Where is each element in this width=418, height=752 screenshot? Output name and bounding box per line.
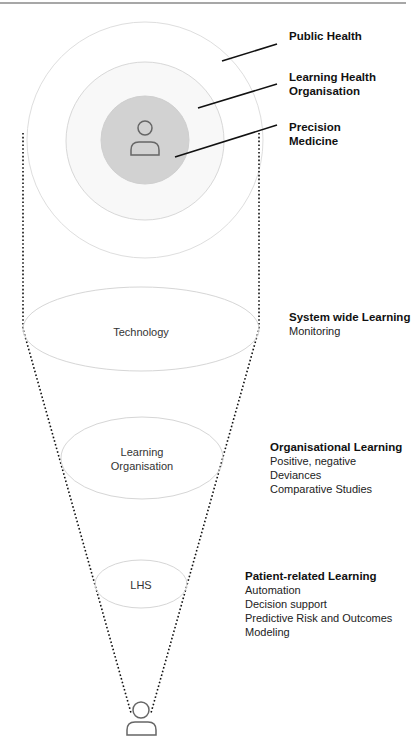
level-item: Positive, negative (270, 454, 402, 468)
lhs-text: LHS (130, 579, 151, 591)
level-item: Automation (245, 583, 392, 597)
level-item: Predictive Risk and Outcomes (245, 611, 392, 625)
pm-line2: Medicine (289, 134, 341, 148)
level-organisational: Organisational Learning Positive, negati… (270, 440, 402, 496)
level-title: Organisational Learning (270, 440, 402, 454)
lo-line1: Learning (82, 445, 202, 459)
technology-text: Technology (113, 326, 169, 338)
level-title: System wide Learning (289, 310, 410, 324)
leader-public-health (222, 44, 277, 61)
level-patient-related: Patient-related Learning Automation Deci… (245, 569, 392, 639)
lhs-label: LHS (111, 578, 171, 592)
label-public-health: Public Health (289, 29, 362, 43)
label-learning-health-org: Learning Health Organisation (289, 70, 376, 98)
level-item: Decision support (245, 597, 392, 611)
level-item: Monitoring (289, 324, 410, 338)
level-item: Modeling (245, 625, 392, 639)
lho-line2: Organisation (289, 84, 376, 98)
level-system-wide: System wide Learning Monitoring (289, 310, 410, 338)
pm-line1: Precision (289, 120, 341, 134)
bottom-person-icon (127, 702, 156, 735)
level-title: Patient-related Learning (245, 569, 392, 583)
public-health-text: Public Health (289, 30, 362, 42)
level-item: Deviances (270, 468, 402, 482)
lo-line2: Organisation (82, 459, 202, 473)
precision-medicine-circle (101, 96, 189, 184)
lho-line1: Learning Health (289, 70, 376, 84)
technology-label: Technology (81, 325, 201, 339)
learning-organisation-label: Learning Organisation (82, 445, 202, 473)
level-item: Comparative Studies (270, 482, 402, 496)
learning-health-diagram (0, 0, 418, 752)
label-precision-medicine: Precision Medicine (289, 120, 341, 148)
